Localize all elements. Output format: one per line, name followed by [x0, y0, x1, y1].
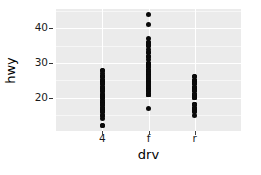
y-axis-title: hwy: [0, 0, 20, 140]
chart-figure: hwy 203040 4fr drv: [0, 0, 261, 175]
y-tick-label: 20: [18, 92, 48, 103]
data-point: [146, 106, 151, 111]
y-tick-mark: [49, 63, 53, 64]
data-point: [192, 113, 197, 118]
y-axis-ticks: 203040: [18, 0, 48, 175]
data-point: [146, 92, 151, 97]
x-axis-title: drv: [56, 147, 241, 162]
y-axis-title-text: hwy: [3, 57, 18, 84]
data-point: [100, 116, 105, 121]
y-tick-mark: [49, 28, 53, 29]
data-point: [146, 22, 151, 27]
plot-panel: [56, 9, 241, 131]
y-tick-label: 40: [18, 22, 48, 33]
data-point: [146, 12, 151, 17]
data-point: [192, 95, 197, 100]
data-point: [100, 123, 105, 128]
y-tick-mark: [49, 98, 53, 99]
x-tick-mark: [102, 131, 103, 135]
x-tick-mark: [195, 131, 196, 135]
y-tick-label: 30: [18, 57, 48, 68]
x-tick-mark: [149, 131, 150, 135]
